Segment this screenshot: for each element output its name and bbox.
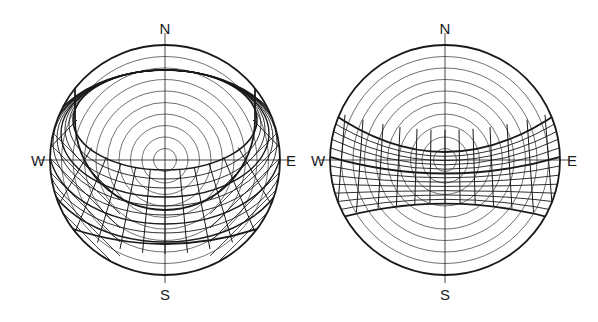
left-east-label: E [286, 152, 296, 169]
left-south-label: S [160, 286, 170, 303]
hour-line [356, 120, 363, 212]
left-sun-path-diagram [30, 33, 300, 283]
hour-line [527, 120, 534, 212]
hour-line [459, 130, 460, 204]
right-north-label: N [440, 20, 451, 37]
hour-line [378, 124, 383, 208]
hour-line [473, 129, 475, 205]
hour-line [415, 129, 417, 205]
right-south-label: S [440, 286, 450, 303]
left-west-label: W [31, 152, 46, 169]
hour-line [430, 130, 431, 204]
right-west-label: W [311, 152, 326, 169]
right-sun-path-diagram [320, 33, 570, 283]
hour-line [507, 124, 512, 208]
left-north-label: N [160, 20, 171, 37]
right-east-label: E [567, 152, 577, 169]
sun-path-diagrams: N S W E N S W E [0, 0, 598, 322]
